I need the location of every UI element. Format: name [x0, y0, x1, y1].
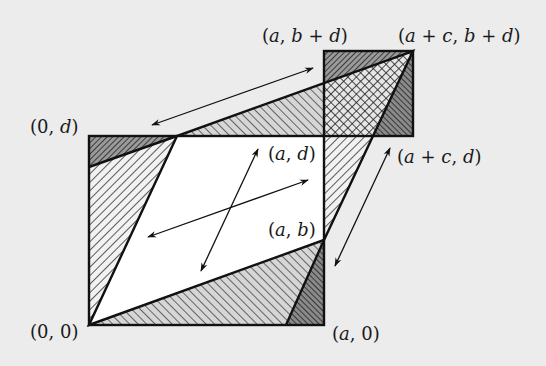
- label-a-b: (a, b): [268, 219, 316, 240]
- label-a-plus-c-d: (a + c, d): [397, 146, 481, 167]
- diagram-canvas: (a, b + d) (a + c, b + d) (0, d) (a, d) …: [0, 0, 546, 366]
- label-zero-d: (0, d): [30, 116, 79, 137]
- label-a-b-plus-d: (a, b + d): [262, 25, 348, 46]
- label-origin: (0, 0): [30, 321, 78, 342]
- label-a-d: (a, d): [268, 143, 316, 164]
- parallelogram-diagram: (a, b + d) (a + c, b + d) (0, d) (a, d) …: [0, 0, 546, 366]
- label-a-plus-c-b-plus-d: (a + c, b + d): [398, 25, 521, 46]
- label-a-0: (a, 0): [332, 323, 380, 344]
